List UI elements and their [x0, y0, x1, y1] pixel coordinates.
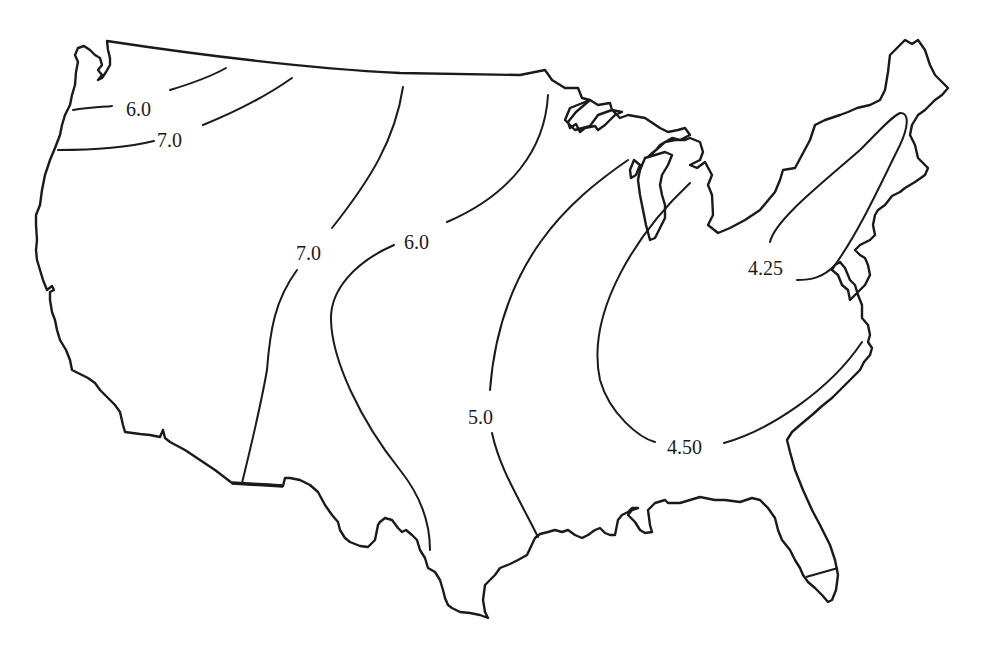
label-se-450: 4.50	[667, 436, 702, 458]
isoline-nw-6b	[170, 68, 226, 90]
border-segment	[232, 483, 283, 486]
isoline-map: 6.0 7.0 7.0 6.0 5.0 4.50 4.25	[0, 0, 990, 653]
isoline-nw-7	[58, 141, 154, 150]
label-nw-7: 7.0	[157, 129, 182, 151]
isoline-center-6b	[331, 245, 430, 550]
isoline-mid-5b	[492, 433, 538, 537]
isoline-ne-425	[770, 113, 907, 280]
isoline-nw-6	[73, 106, 112, 110]
lake-michigan	[638, 152, 672, 240]
florida-cap-line	[806, 568, 838, 577]
us-outline	[36, 40, 948, 618]
isoline-nw-7b	[203, 78, 292, 125]
isoline-se-450b	[724, 342, 862, 443]
label-nw-6: 6.0	[126, 98, 151, 120]
label-center-6: 6.0	[404, 231, 429, 253]
label-mid-5: 5.0	[468, 406, 493, 428]
isoline-center-7b	[242, 270, 297, 483]
isoline-center-7a	[332, 87, 403, 228]
label-center-7: 7.0	[296, 242, 321, 264]
isoline-se-450a	[597, 183, 690, 442]
label-ne-425: 4.25	[748, 257, 783, 279]
isoline-center-6a	[447, 95, 548, 222]
isoline-mid-5a	[490, 160, 628, 390]
us-map-svg: 6.0 7.0 7.0 6.0 5.0 4.50 4.25	[0, 0, 990, 653]
